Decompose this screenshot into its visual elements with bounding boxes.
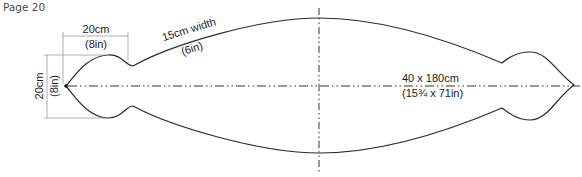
lobe-height-cm-label: 20cm xyxy=(33,73,45,100)
pattern-diagram: 20cm (8in) 20cm (8in) 15cm width (6in) 4… xyxy=(0,0,582,177)
lobe-height-in-label: (8in) xyxy=(48,75,60,97)
lobe-width-in-label: (8in) xyxy=(85,38,107,50)
overall-size-in-label: (15¾ x 71in) xyxy=(402,87,463,99)
band-width-cm-label: 15cm width xyxy=(160,15,217,43)
overall-size-cm-label: 40 x 180cm xyxy=(402,72,459,84)
band-width-in-label: (6in) xyxy=(180,39,205,57)
left-tip-marker xyxy=(64,84,68,88)
lobe-width-cm-label: 20cm xyxy=(83,23,110,35)
